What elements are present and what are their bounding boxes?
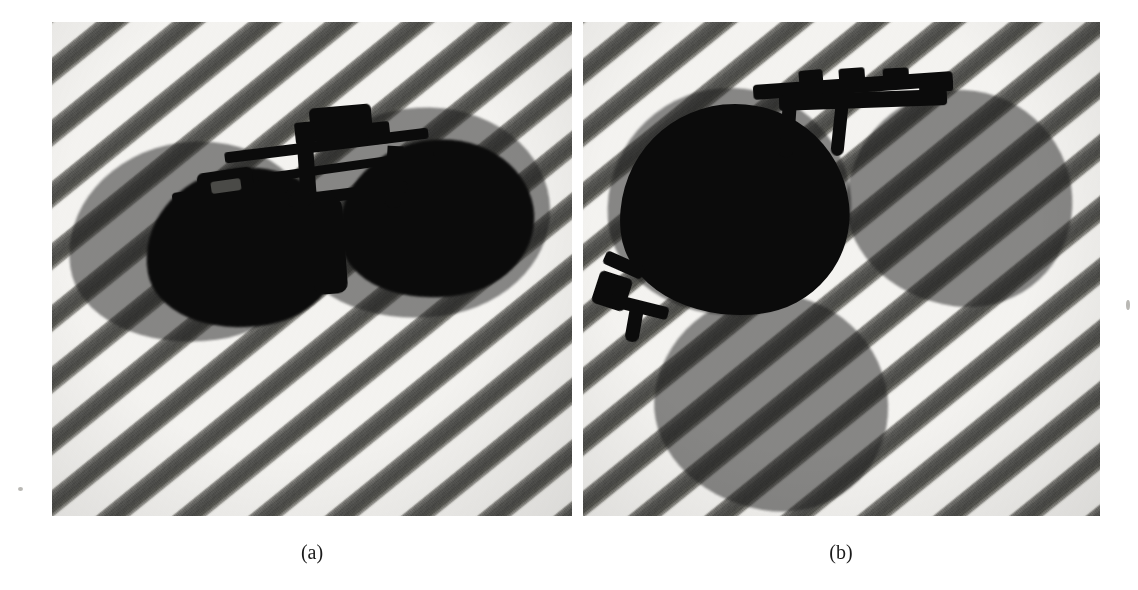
page-speck-left	[18, 487, 23, 491]
caption-panel-b: (b)	[781, 541, 901, 564]
figure-root: (a) (b)	[0, 0, 1138, 590]
panel-b	[583, 22, 1100, 516]
caption-panel-a: (a)	[252, 541, 372, 564]
panel-vignette-b	[583, 22, 1100, 516]
panel-a	[52, 22, 572, 516]
panel-vignette-a	[52, 22, 572, 516]
page-speck-right	[1126, 300, 1130, 310]
